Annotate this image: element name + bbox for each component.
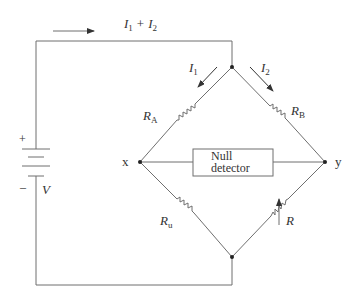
resistor-RB-icon bbox=[270, 104, 287, 120]
node-y-label: y bbox=[335, 154, 342, 169]
circuit-diagram: + – V I1+I2 RA RB Ru R Null detector I1 bbox=[0, 0, 358, 299]
node-top bbox=[230, 65, 234, 69]
node-x bbox=[138, 160, 142, 164]
Ru-label: Ru bbox=[159, 213, 173, 230]
branch-RB bbox=[232, 67, 325, 162]
battery-symbol bbox=[22, 149, 50, 176]
node-y bbox=[323, 160, 327, 164]
null-detector-label-line2: detector bbox=[211, 161, 250, 175]
battery-plus-label: + bbox=[19, 132, 26, 146]
RA-label: RA bbox=[142, 108, 158, 125]
current-I1-arrow-icon bbox=[198, 67, 217, 87]
battery-minus-label: – bbox=[19, 180, 27, 194]
I2-label: I2 bbox=[260, 60, 270, 77]
top-wire bbox=[36, 41, 232, 149]
battery-voltage-label: V bbox=[42, 182, 52, 197]
bottom-wire bbox=[36, 176, 232, 285]
node-bottom bbox=[230, 255, 234, 259]
RB-label: RB bbox=[290, 103, 305, 120]
node-x-label: x bbox=[122, 154, 129, 169]
resistor-RA-icon bbox=[177, 104, 195, 120]
total-current-label: I1+I2 bbox=[123, 16, 157, 33]
resistor-Ru-icon bbox=[177, 197, 194, 213]
R-label: R bbox=[285, 213, 294, 228]
I1-label: I1 bbox=[188, 60, 198, 77]
